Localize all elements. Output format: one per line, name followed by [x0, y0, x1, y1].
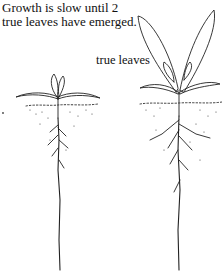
seedling-true-leaves-icon [138, 10, 222, 270]
seedling-early-icon [16, 74, 100, 270]
seedling-illustration [0, 0, 222, 275]
